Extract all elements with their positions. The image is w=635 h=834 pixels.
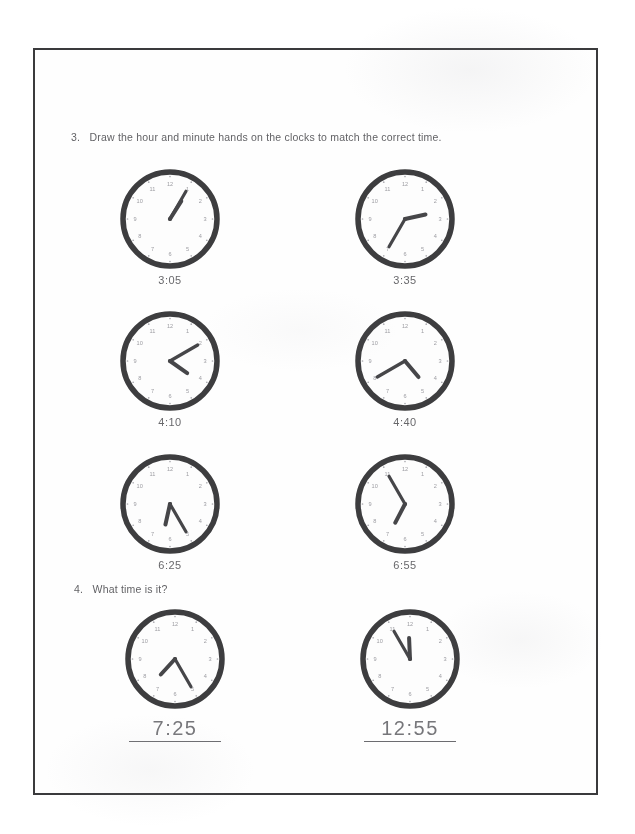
- clock-tick: [404, 261, 406, 263]
- clock-center-hub: [403, 502, 407, 506]
- clock-tick: [132, 658, 134, 660]
- clock-numeral: 11: [150, 471, 156, 477]
- clock-tick: [362, 360, 364, 362]
- clock-tick: [127, 360, 129, 362]
- clock-tick: [383, 255, 385, 257]
- clock-face-answer-12-55[interactable]: 121234567891011: [350, 605, 470, 713]
- answer-line-12-55[interactable]: 12:55: [364, 717, 456, 742]
- clock-face-answer-7-25[interactable]: 121234567891011: [115, 605, 235, 713]
- clock-numeral: 1: [421, 328, 424, 334]
- clock-tick: [211, 637, 213, 639]
- clock-numeral: 8: [378, 673, 381, 679]
- clock-face-3-05[interactable]: 121234567891011: [110, 165, 230, 273]
- clock-numeral: 6: [173, 691, 176, 697]
- clock-numeral: 5: [186, 246, 189, 252]
- clock-tick: [367, 482, 369, 484]
- clock-tick: [441, 197, 443, 199]
- clock-tick: [425, 181, 427, 183]
- clock-numeral: 3: [438, 358, 441, 364]
- clock-numeral: 2: [434, 340, 437, 346]
- question-3-text: Draw the hour and minute hands on the cl…: [90, 131, 442, 143]
- clock-label-4-10: 4:10: [110, 416, 230, 428]
- clock-tick: [190, 540, 192, 542]
- clock-numeral: 3: [438, 501, 441, 507]
- clock-numeral: 9: [373, 656, 376, 662]
- clock-label-4-40: 4:40: [345, 416, 465, 428]
- question-4-prompt: 4. What time is it?: [74, 583, 168, 595]
- clock-numeral: 2: [434, 198, 437, 204]
- clock-numeral: 7: [156, 686, 159, 692]
- clock-svg: 121234567891011: [121, 605, 229, 713]
- clock-cell-4-40: 121234567891011 4:40: [345, 307, 465, 428]
- clock-tick: [425, 323, 427, 325]
- clock-tick: [452, 658, 454, 660]
- clock-face-4-10[interactable]: 121234567891011: [110, 307, 230, 415]
- clock-numeral: 9: [133, 501, 136, 507]
- clock-tick: [190, 466, 192, 468]
- clock-tick: [132, 197, 134, 199]
- clock-face-4-40[interactable]: 121234567891011: [345, 307, 465, 415]
- question-4-text: What time is it?: [93, 583, 168, 595]
- clock-tick: [446, 679, 448, 681]
- clock-tick: [367, 239, 369, 241]
- clock-numeral: 10: [372, 483, 378, 489]
- clock-numeral: 3: [203, 358, 206, 364]
- clock-numeral: 1: [421, 186, 424, 192]
- clock-numeral: 4: [204, 673, 207, 679]
- clock-label-3-05: 3:05: [110, 274, 230, 286]
- clock-numeral: 2: [439, 638, 442, 644]
- clock-numeral: 7: [386, 531, 389, 537]
- clock-numeral: 5: [421, 246, 424, 252]
- clock-tick: [430, 621, 432, 623]
- clock-tick: [190, 323, 192, 325]
- clock-svg: 121234567891011: [116, 307, 224, 415]
- clock-tick: [383, 466, 385, 468]
- clock-center-hub: [168, 502, 172, 506]
- clock-tick: [404, 546, 406, 548]
- clock-cell-3-35: 121234567891011 3:35: [345, 165, 465, 286]
- clock-numeral: 11: [385, 186, 391, 192]
- clock-tick: [169, 318, 171, 320]
- clock-numeral: 8: [373, 518, 376, 524]
- clock-tick: [211, 679, 213, 681]
- clock-svg: 121234567891011: [116, 450, 224, 558]
- clock-cell-3-05: 121234567891011 3:05: [110, 165, 230, 286]
- clock-tick: [383, 181, 385, 183]
- clock-tick: [127, 218, 129, 220]
- clock-tick: [441, 524, 443, 526]
- clock-tick: [362, 503, 364, 505]
- clock-numeral: 11: [155, 626, 161, 632]
- clock-numeral: 6: [403, 393, 406, 399]
- clock-numeral: 3: [203, 216, 206, 222]
- clock-svg: 121234567891011: [351, 307, 459, 415]
- clock-tick: [409, 616, 411, 618]
- clock-tick: [446, 637, 448, 639]
- clock-numeral: 8: [138, 233, 141, 239]
- clock-numeral: 11: [150, 328, 156, 334]
- clock-numeral: 3: [203, 501, 206, 507]
- clock-face-6-25[interactable]: 121234567891011: [110, 450, 230, 558]
- clock-tick: [190, 255, 192, 257]
- clock-tick: [404, 403, 406, 405]
- clock-numeral: 9: [133, 216, 136, 222]
- clock-numeral: 1: [426, 626, 429, 632]
- clock-center-hub: [168, 359, 172, 363]
- clock-numeral: 6: [168, 251, 171, 257]
- clock-numeral: 4: [199, 518, 202, 524]
- clock-numeral: 9: [368, 216, 371, 222]
- clock-tick: [174, 701, 176, 703]
- clock-numeral: 9: [368, 501, 371, 507]
- clock-tick: [425, 540, 427, 542]
- clock-numeral: 10: [137, 483, 143, 489]
- question-3-prompt: 3. Draw the hour and minute hands on the…: [71, 131, 442, 143]
- clock-numeral: 7: [151, 531, 154, 537]
- clock-face-3-35[interactable]: 121234567891011: [345, 165, 465, 273]
- clock-tick: [206, 197, 208, 199]
- clock-numeral: 5: [186, 388, 189, 394]
- clock-center-hub: [168, 217, 172, 221]
- clock-face-6-55[interactable]: 121234567891011: [345, 450, 465, 558]
- clock-tick: [383, 540, 385, 542]
- answer-line-7-25[interactable]: 7:25: [129, 717, 221, 742]
- clock-numeral: 6: [403, 536, 406, 542]
- clock-tick: [367, 381, 369, 383]
